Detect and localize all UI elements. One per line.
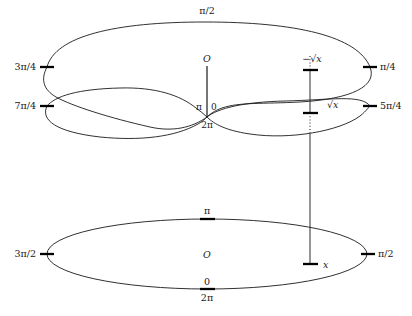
lower-sheet-right-fold: [207, 99, 370, 117]
base-angle-label-pi-over-2: π/2: [378, 248, 394, 259]
base-angle-label-3pi-over-2: 3π/2: [14, 248, 36, 259]
lower-sheet-bottom-right-curve: [207, 105, 371, 136]
angle-label-pi-over-4: π/4: [380, 61, 396, 72]
base-angle-label-zero: 0: [204, 276, 210, 287]
fiber-label-sqrt-x: √x: [327, 99, 339, 110]
base-angle-label-twopi: 2π: [201, 292, 213, 303]
lower-sheet-outer-curve: [45, 106, 207, 138]
base-center-label: O: [203, 249, 211, 260]
upper-surface-group: O π 0 2π π/2 3π/4 7π/4 π/4 5π/4 −√x: [14, 5, 401, 264]
branch-label-zero: 0: [211, 102, 217, 112]
riemann-surface-svg: O π 0 2π π/2 3π/4 7π/4 π/4 5π/4 −√x: [0, 0, 412, 316]
upper-sheet-right-fold: [207, 67, 371, 117]
angle-label-7pi-over-4: 7π/4: [14, 100, 36, 111]
angle-label-5pi-over-4: 5π/4: [380, 100, 402, 111]
base-plane-group: O π 3π/2 π/2 0 2π x: [14, 205, 393, 303]
upper-center-label: O: [203, 53, 211, 64]
branch-label-pi: π: [196, 102, 202, 112]
upper-sheet-left-fold: [44, 67, 207, 129]
base-point-label-x: x: [323, 259, 329, 270]
angle-label-pi-over-2-top: π/2: [199, 5, 215, 16]
base-angle-label-pi: π: [204, 205, 210, 216]
fiber-label-minus-sqrt-x: −√x: [302, 53, 322, 64]
branch-label-twopi: 2π: [201, 120, 213, 130]
angle-label-3pi-over-4: 3π/4: [14, 61, 36, 72]
riemann-surface-figure: O π 0 2π π/2 3π/4 7π/4 π/4 5π/4 −√x: [0, 0, 412, 316]
lower-sheet-top-left-curve: [47, 88, 207, 117]
